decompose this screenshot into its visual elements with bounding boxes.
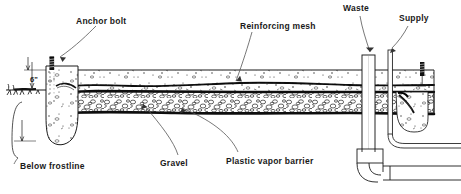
label-waste: Waste	[343, 4, 369, 13]
fixture-concrete-pocket	[396, 92, 428, 132]
label-gravel: Gravel	[160, 159, 188, 168]
anchor-bolt-stud	[50, 57, 55, 70]
label-reinforcing-mesh: Reinforcing mesh	[240, 22, 316, 31]
grade-line	[6, 84, 46, 95]
thickened-edge-footing	[46, 66, 78, 145]
label-plastic-vapor-barrier: Plastic vapor barrier	[226, 157, 313, 166]
drain-trap	[357, 149, 461, 182]
label-below-frostline: Below frostline	[20, 162, 85, 171]
label-supply: Supply	[399, 14, 429, 23]
waste-pipe	[362, 55, 375, 152]
label-anchor-bolt: Anchor bolt	[76, 17, 126, 26]
gravel-base	[52, 92, 434, 113]
below-frostline-dimension	[12, 102, 36, 158]
diagram-canvas: Anchor bolt Reinforcing mesh Waste Suppl…	[0, 0, 461, 194]
dimension-slab-edge-height: 6"	[30, 76, 38, 84]
